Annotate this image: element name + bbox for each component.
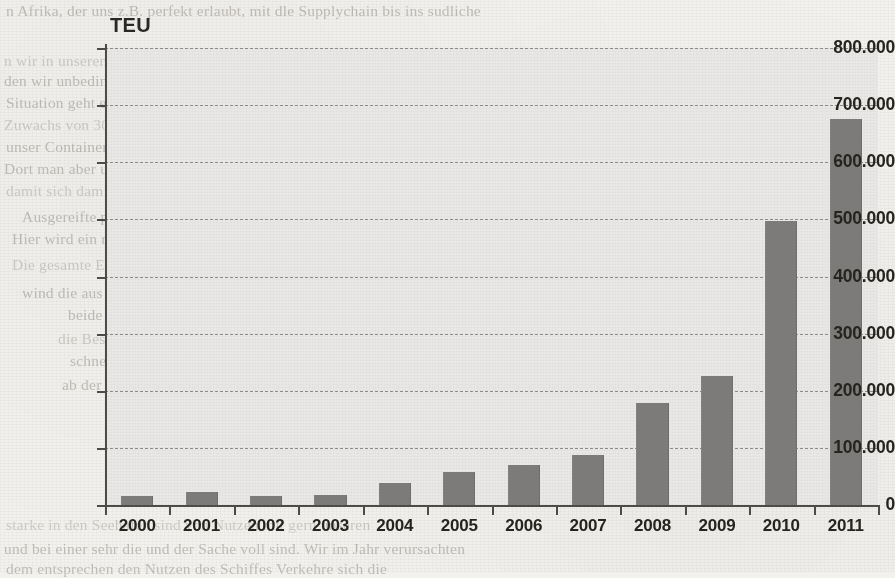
x-axis-tick [234, 505, 236, 515]
y-axis-tick [97, 391, 106, 393]
gridline [105, 448, 878, 449]
x-axis-tick [749, 505, 751, 515]
gridline [105, 334, 878, 335]
x-axis-tick [556, 505, 558, 515]
x-axis-tick-label: 2003 [298, 516, 362, 536]
y-axis-tick-label: 400.000 [809, 266, 895, 287]
y-axis-tick-label: 800.000 [809, 37, 895, 58]
y-axis-tick [97, 162, 106, 164]
x-axis-tick-label: 2005 [427, 516, 491, 536]
x-axis-tick [620, 505, 622, 515]
y-axis-tick [97, 219, 106, 221]
y-axis-tick-label: 500.000 [809, 208, 895, 229]
bar [443, 472, 475, 505]
gridline [105, 277, 878, 278]
x-axis-tick [298, 505, 300, 515]
y-axis-tick-label: 300.000 [809, 323, 895, 344]
x-axis-tick [814, 505, 816, 515]
bar [508, 465, 540, 505]
x-axis-tick [685, 505, 687, 515]
x-axis-tick-label: 2008 [620, 516, 684, 536]
x-axis-tick [427, 505, 429, 515]
bar [186, 492, 218, 505]
bar [250, 496, 282, 505]
bar [121, 496, 153, 505]
x-axis-tick-label: 2000 [105, 516, 169, 536]
bar [765, 221, 797, 505]
bar [314, 495, 346, 505]
gridline [105, 105, 878, 106]
x-axis-tick-label: 2011 [814, 516, 878, 536]
y-axis-tick [97, 105, 106, 107]
x-axis-tick [105, 505, 107, 515]
gridline [105, 162, 878, 163]
x-axis-tick [878, 505, 880, 515]
gridline [105, 219, 878, 220]
y-axis-tick-label: 700.000 [809, 94, 895, 115]
bar [572, 455, 604, 505]
y-axis-tick-label: 200.000 [809, 380, 895, 401]
y-axis-tick [97, 448, 106, 450]
gridline [105, 48, 878, 49]
y-axis-tick [97, 277, 106, 279]
x-axis-tick-label: 2009 [685, 516, 749, 536]
y-axis-tick [97, 48, 106, 50]
x-axis-tick-label: 2002 [234, 516, 298, 536]
gridline [105, 391, 878, 392]
plot-area [105, 48, 878, 505]
y-axis-unit-label: TEU [110, 14, 151, 37]
y-axis-tick [97, 334, 106, 336]
x-axis-tick [169, 505, 171, 515]
y-axis-tick-label: 600.000 [809, 151, 895, 172]
x-axis-tick-label: 2001 [169, 516, 233, 536]
y-axis-tick-label: 100.000 [809, 437, 895, 458]
x-axis-tick-label: 2004 [363, 516, 427, 536]
x-axis-tick-label: 2007 [556, 516, 620, 536]
x-axis-tick [492, 505, 494, 515]
x-axis-tick-label: 2006 [492, 516, 556, 536]
y-axis-tick-label: 0 [809, 494, 895, 515]
bar [701, 376, 733, 505]
bar [379, 483, 411, 505]
bar [636, 403, 668, 505]
x-axis-tick [363, 505, 365, 515]
x-axis-tick-label: 2010 [749, 516, 813, 536]
